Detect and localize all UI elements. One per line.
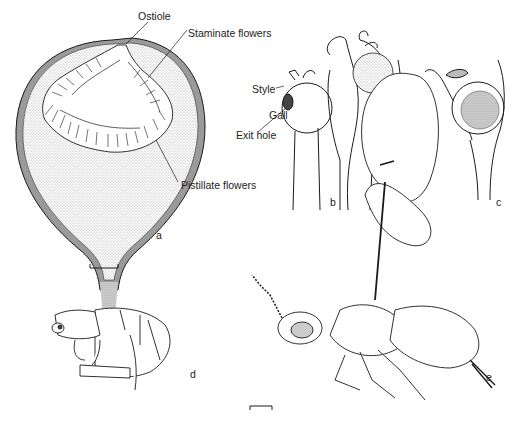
style-leader: [276, 86, 284, 88]
label-pistillate-flowers: Pistillate flowers: [181, 180, 256, 191]
scale-bar-e: [250, 406, 272, 410]
fig-wasp-diagram: [0, 0, 519, 423]
label-style: Style: [252, 84, 275, 95]
panel-label-c: c: [496, 197, 501, 208]
label-staminate-flowers: Staminate flowers: [188, 28, 271, 39]
panel-label-e: e: [486, 372, 492, 383]
panel-label-d: d: [190, 369, 196, 380]
label-gall: Gall: [269, 110, 288, 121]
male-wasp: [52, 308, 170, 390]
syconium-section: [16, 38, 205, 330]
label-exit-hole: Exit hole: [236, 130, 276, 141]
panel-label-b: b: [330, 197, 336, 208]
label-ostiole: Ostiole: [138, 11, 171, 22]
panel-label-a: a: [156, 230, 162, 241]
